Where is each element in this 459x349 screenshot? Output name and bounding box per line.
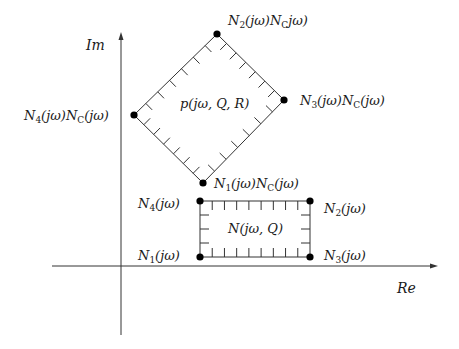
diamond-right-label: N3(jω)NC(jω) bbox=[300, 94, 385, 110]
label-part: N bbox=[24, 108, 35, 123]
diamond-left-label: N4(jω)NC(jω) bbox=[24, 109, 109, 125]
corner-dot-bottom-left bbox=[196, 253, 203, 260]
diamond-tick bbox=[164, 138, 170, 144]
label-part: N bbox=[228, 13, 239, 28]
corner-dot-bottom-right bbox=[306, 253, 313, 260]
diamond-tick bbox=[158, 92, 164, 98]
diamond-tick bbox=[146, 103, 152, 109]
rect-bottom-right-label: N3(jω) bbox=[324, 249, 366, 265]
diamond-tick bbox=[268, 91, 274, 97]
diamond-tick bbox=[154, 128, 160, 134]
diamond-edge bbox=[217, 34, 284, 100]
label-part: N bbox=[324, 201, 335, 216]
corner-dot-top-right bbox=[306, 197, 313, 204]
diamond-tick bbox=[254, 117, 260, 123]
vertex-dot-bottom bbox=[199, 179, 206, 186]
diagram-svg bbox=[0, 0, 459, 349]
im-axis-label: Im bbox=[86, 38, 105, 52]
y-axis-arrow-icon bbox=[119, 32, 124, 40]
label-part: N bbox=[214, 176, 225, 191]
diamond-tick bbox=[230, 53, 236, 59]
diamond-tick bbox=[193, 167, 199, 173]
diamond-tick bbox=[144, 118, 150, 124]
vertex-dot-top bbox=[213, 30, 220, 37]
label-part: N bbox=[324, 248, 335, 263]
diamond-tick bbox=[239, 62, 245, 68]
re-axis-label: Re bbox=[397, 281, 416, 295]
label-part: jω) bbox=[288, 13, 308, 28]
label-part: N bbox=[300, 93, 311, 108]
label-part: N bbox=[138, 196, 149, 211]
diamond-top-label: N2(jω)NCjω) bbox=[228, 14, 308, 30]
label-part: (jω) bbox=[155, 248, 180, 263]
diamond-center-label: p(jω, Q, R) bbox=[180, 97, 249, 110]
diamond-tick bbox=[220, 153, 226, 159]
rect-center-label: N(jω, Q) bbox=[228, 222, 283, 235]
diagram-canvas: Im Re N2(jω)NCjω) N3(jω)NC(jω) N4(jω)NC(… bbox=[0, 0, 459, 349]
diamond-tick bbox=[193, 57, 199, 63]
diamond-tick bbox=[231, 141, 237, 147]
diamond-tick bbox=[243, 129, 249, 135]
diamond-tick bbox=[266, 106, 272, 112]
diamond-tick bbox=[259, 81, 265, 87]
vertex-dot-right bbox=[280, 96, 287, 103]
label-part: (jω)N bbox=[245, 13, 281, 28]
diamond-tick bbox=[181, 69, 187, 75]
diamond-tick bbox=[249, 72, 255, 78]
label-part: N bbox=[138, 248, 149, 263]
label-part: (jω) bbox=[274, 176, 299, 191]
label-part: (jω) bbox=[155, 196, 180, 211]
diamond-edge bbox=[203, 100, 284, 183]
diamond-tick bbox=[205, 46, 211, 52]
rect-bottom-left-label: N1(jω) bbox=[138, 249, 180, 265]
rect-top-left-label: N4(jω) bbox=[138, 197, 180, 213]
label-part: (jω) bbox=[84, 108, 109, 123]
label-part: (jω)N bbox=[317, 93, 353, 108]
diamond-tick bbox=[208, 165, 214, 171]
diamond-tick bbox=[170, 80, 176, 86]
x-axis-arrow-icon bbox=[430, 264, 438, 269]
label-part: (jω) bbox=[341, 248, 366, 263]
vertex-dot-left bbox=[130, 111, 137, 118]
label-part: (jω)N bbox=[231, 176, 267, 191]
diamond-tick bbox=[183, 157, 189, 163]
diamond-tick bbox=[220, 43, 226, 49]
rect-top-right-label: N2(jω) bbox=[324, 202, 366, 218]
label-part: (jω) bbox=[341, 201, 366, 216]
diamond-edge bbox=[134, 115, 203, 183]
diamond-tick bbox=[173, 147, 179, 153]
label-part: (jω)N bbox=[41, 108, 77, 123]
label-part: (jω) bbox=[360, 93, 385, 108]
corner-dot-top-left bbox=[196, 197, 203, 204]
diamond-bottom-label: N1(jω)NC(jω) bbox=[214, 177, 299, 193]
